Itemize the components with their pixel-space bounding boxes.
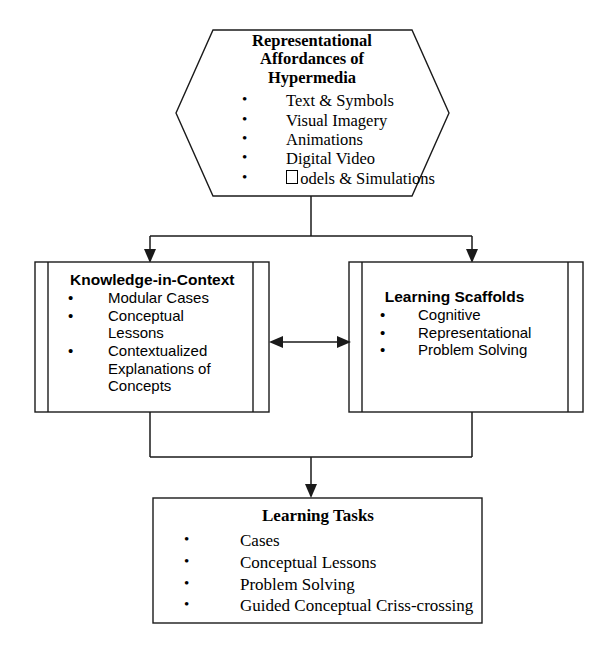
arrowhead-to-left-box xyxy=(144,249,156,263)
list-item: • Visual Imagery xyxy=(242,111,426,130)
bullet-dot-icon: • xyxy=(184,574,189,593)
list-item: • Animations xyxy=(242,130,426,149)
bullet-dot-icon: • xyxy=(242,91,247,109)
bullet-dot-icon: • xyxy=(380,324,385,342)
arrowhead-to-right-box xyxy=(466,249,478,263)
list-item: • Text & Symbols xyxy=(242,91,426,110)
node-hexagon-bullet-list: • Text & Symbols • Visual Imagery • Anim… xyxy=(198,91,426,187)
bullet-dot-icon: • xyxy=(380,341,385,359)
list-item: • Representational xyxy=(380,324,547,342)
bullet-dot-icon: • xyxy=(380,306,385,324)
node-knowledge-in-context-content: Knowledge-in-Context • Modular Cases • C… xyxy=(62,271,252,395)
list-item: • Contextualized xyxy=(68,342,252,360)
node-learning-scaffolds-title: Learning Scaffolds xyxy=(362,288,547,305)
list-item: • Modular Cases xyxy=(68,289,252,307)
list-item: • Digital Video xyxy=(242,149,426,168)
node-learning-scaffolds-content: Learning Scaffolds • Cognitive • Represe… xyxy=(362,288,547,359)
node-learning-scaffolds-bullet-list: • Cognitive • Representational • Problem… xyxy=(362,306,547,359)
list-item: • Problem Solving xyxy=(380,341,547,359)
list-item: • Cases xyxy=(184,530,476,552)
node-hexagon-title: Representational Affordances of Hypermed… xyxy=(198,32,426,87)
list-item-continuation: • Explanations of xyxy=(68,360,252,378)
bullet-dot-icon: • xyxy=(68,307,73,325)
node-hexagon-content: Representational Affordances of Hypermed… xyxy=(198,32,426,188)
bullet-dot-icon: • xyxy=(184,595,189,614)
node-knowledge-in-context-bullet-list: • Modular Cases • Conceptual • Lessons •… xyxy=(62,289,252,394)
bullet-dot-icon: • xyxy=(68,342,73,360)
list-item: • odels & Simulations xyxy=(242,169,426,188)
list-item: • Guided Conceptual Criss-crossing xyxy=(184,595,476,617)
bullet-dot-icon: • xyxy=(242,111,247,129)
diagram-canvas: Representational Affordances of Hypermed… xyxy=(0,0,613,655)
node-knowledge-in-context-title: Knowledge-in-Context xyxy=(62,271,252,288)
missing-glyph-label: odels & Simulations xyxy=(286,169,426,188)
list-item-continuation: • Concepts xyxy=(68,377,252,395)
bullet-dot-icon: • xyxy=(242,149,247,167)
node-learning-tasks-bullet-list: • Cases • Conceptual Lessons • Problem S… xyxy=(160,530,476,617)
list-item: • Conceptual Lessons xyxy=(184,552,476,574)
list-item-continuation: • Lessons xyxy=(68,324,252,342)
missing-glyph-icon xyxy=(286,170,298,184)
arrowhead-to-bottom-box xyxy=(305,484,317,498)
bullet-dot-icon: • xyxy=(242,169,247,187)
list-item: • Conceptual xyxy=(68,307,252,325)
list-item: • Cognitive xyxy=(380,306,547,324)
bullet-dot-icon: • xyxy=(68,289,73,307)
bullet-dot-icon: • xyxy=(184,530,189,549)
arrowhead-link-left xyxy=(269,336,283,348)
list-item: • Problem Solving xyxy=(184,574,476,596)
node-learning-tasks-content: Learning Tasks • Cases • Conceptual Less… xyxy=(160,506,476,617)
bullet-dot-icon: • xyxy=(184,552,189,571)
node-learning-tasks-title: Learning Tasks xyxy=(160,506,476,525)
bullet-dot-icon: • xyxy=(242,130,247,148)
